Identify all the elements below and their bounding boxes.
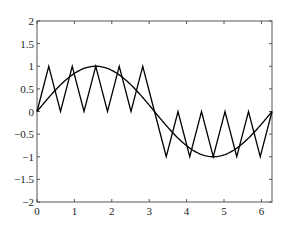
y-tick-label: −1.5 xyxy=(14,173,34,185)
y-tick-label: 2 xyxy=(29,15,35,27)
x-tick-label: 4 xyxy=(184,205,190,217)
x-tick-label: 2 xyxy=(109,205,115,217)
x-tick-label: 0 xyxy=(34,205,40,217)
y-tick-label: 0.5 xyxy=(20,83,34,95)
y-tick-label: −0.5 xyxy=(14,128,34,140)
x-tick-labels: 0123456 xyxy=(34,205,264,217)
y-tick-label: 1 xyxy=(29,60,35,72)
x-tick-label: 5 xyxy=(221,205,227,217)
line-chart: 0123456 21.510.50−0.5−1−1.5−2 xyxy=(0,0,287,230)
x-tick-label: 3 xyxy=(146,205,152,217)
y-tick-label: −2 xyxy=(22,196,34,208)
y-tick-label: 0 xyxy=(29,106,35,118)
y-tick-labels: 21.510.50−0.5−1−1.5−2 xyxy=(14,15,34,208)
x-tick-label: 1 xyxy=(72,205,78,217)
x-tick-label: 6 xyxy=(259,205,265,217)
y-tick-label: −1 xyxy=(22,151,34,163)
y-tick-label: 1.5 xyxy=(20,38,34,50)
